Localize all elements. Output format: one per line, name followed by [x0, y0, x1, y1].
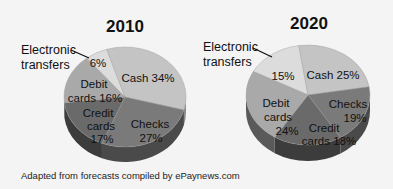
- callout-electronic-2020-line1: Electronic: [203, 40, 258, 54]
- pie-chart-2010: [64, 47, 186, 162]
- label-debit-2020-3: 24%: [275, 125, 298, 137]
- callout-electronic-2010-line2: transfers: [21, 58, 70, 72]
- chart-title-2010: 2010: [106, 17, 144, 36]
- pie-charts: 2010 2020 Electronic transfers Electroni…: [0, 0, 393, 189]
- callout-electronic-2020-line2: transfers: [203, 55, 252, 69]
- label-debit-2010-2: cards 16%: [68, 92, 122, 104]
- label-checks-2010-1: Checks: [131, 118, 170, 130]
- chart-title-2020: 2020: [290, 14, 328, 33]
- label-cash-2010: Cash 34%: [121, 72, 174, 84]
- label-credit-2010-1: Credit: [83, 107, 114, 119]
- source-caption: Adapted from forecasts compiled by ePayn…: [21, 170, 240, 181]
- label-electronic-2010: 6%: [90, 57, 107, 69]
- label-debit-2010-1: Debit: [81, 78, 109, 90]
- label-electronic-2020: 15%: [271, 70, 294, 82]
- label-debit-2020-1: Debit: [263, 97, 291, 109]
- label-debit-2020-2: cards: [264, 111, 292, 123]
- callout-electronic-2010-line1: Electronic: [21, 43, 76, 57]
- label-credit-2010-3: 17%: [90, 133, 113, 145]
- label-credit-2010-2: cards: [87, 120, 115, 132]
- label-credit-2020-2: cards 18%: [302, 135, 356, 147]
- label-cash-2020: Cash 25%: [306, 69, 359, 81]
- label-checks-2010-2: 27%: [139, 132, 162, 144]
- label-checks-2020-1: Checks: [329, 98, 368, 110]
- label-checks-2020-2: 19%: [343, 112, 366, 124]
- label-credit-2020-1: Credit: [309, 122, 340, 134]
